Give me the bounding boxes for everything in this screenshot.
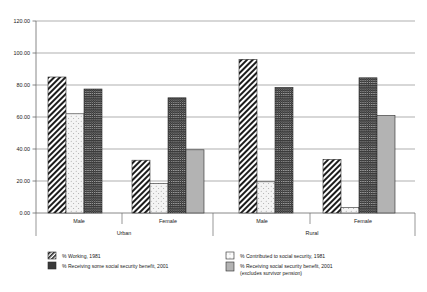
bar-urban-female-contributed-1981 bbox=[150, 183, 168, 213]
ytick-label-100: 100.00 bbox=[14, 50, 31, 56]
xlabel-urban-male: Male bbox=[73, 218, 85, 224]
xlabel-group-rural: Rural bbox=[306, 230, 319, 236]
ytick-label-0: 0.00 bbox=[20, 210, 31, 216]
bar-urban-male-working-1981 bbox=[48, 77, 66, 213]
ytick-label-60: 60.00 bbox=[17, 114, 31, 120]
legend-label-receiving-excl-survivor-2001-line2: (excludes survivor pension) bbox=[240, 270, 302, 276]
dotted-swatch-icon bbox=[226, 252, 234, 259]
bar-rural-female-receiving-excl-survivor-2001 bbox=[377, 115, 395, 213]
ytick-label-120: 120.00 bbox=[14, 18, 31, 24]
legend-label-receiving-some-2001: % Receiving some social security benefit… bbox=[62, 263, 169, 269]
ytick-label-20: 20.00 bbox=[17, 178, 31, 184]
xlabel-rural-female: Female bbox=[354, 218, 372, 224]
bar-urban-female-receiving-excl-survivor-2001 bbox=[186, 150, 204, 213]
legend-label-working-1981: % Working, 1981 bbox=[62, 253, 101, 259]
legend-label-contributed-1981: % Contributed to social security, 1981 bbox=[240, 253, 325, 259]
bar-urban-female-working-1981 bbox=[132, 160, 150, 213]
bar-rural-male-receiving-some-2001 bbox=[275, 87, 293, 213]
bar-chart-figure: 120.00 100.00 80.00 60.00 40.00 20.00 0.… bbox=[0, 0, 427, 292]
bar-urban-male-contributed-1981 bbox=[66, 114, 84, 213]
y-axis: 120.00 100.00 80.00 60.00 40.00 20.00 0.… bbox=[14, 18, 37, 216]
bar-urban-female-receiving-some-2001 bbox=[168, 98, 186, 213]
bar-urban-male-receiving-some-2001 bbox=[84, 89, 102, 213]
bar-rural-female-working-1981 bbox=[323, 159, 341, 213]
xlabel-urban-female: Female bbox=[159, 218, 177, 224]
legend-label-receiving-excl-survivor-2001: % Receiving social security benefit, 200… bbox=[240, 263, 333, 269]
bar-rural-male-contributed-1981 bbox=[257, 182, 275, 213]
category-separators bbox=[36, 213, 415, 236]
xlabel-group-urban: Urban bbox=[117, 230, 132, 236]
chart-legend: % Working, 1981 % Receiving some social … bbox=[48, 252, 333, 276]
solid-grey-swatch-icon bbox=[226, 262, 234, 271]
crosshatch-swatch-icon bbox=[48, 262, 56, 269]
x-axis-labels: Male Female Male Female Urban Rural bbox=[73, 218, 372, 236]
bar-rural-female-receiving-some-2001 bbox=[359, 78, 377, 213]
ytick-label-40: 40.00 bbox=[17, 146, 31, 152]
bar-rural-female-contributed-1981 bbox=[341, 207, 359, 213]
ytick-label-80: 80.00 bbox=[17, 82, 31, 88]
chart-container: 120.00 100.00 80.00 60.00 40.00 20.00 0.… bbox=[0, 0, 427, 292]
xlabel-rural-male: Male bbox=[256, 218, 268, 224]
diagonal-hatch-swatch-icon bbox=[48, 252, 56, 259]
bar-rural-male-working-1981 bbox=[239, 59, 257, 213]
